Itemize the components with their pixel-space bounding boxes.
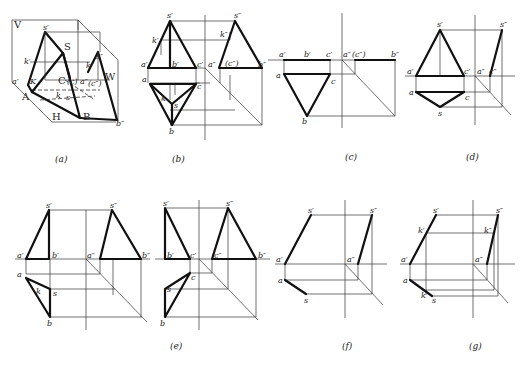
label-c1: c′	[464, 67, 470, 76]
panel-b: s′ s″ k′ k″ a′ b′ c′ a″ (c″) b″ a c k s …	[141, 11, 266, 164]
label-a: a	[409, 88, 414, 97]
label-b3: b″	[391, 50, 399, 59]
label-s: s	[432, 296, 436, 305]
panel-f: s′ s″ a′ a″ a s (f)	[275, 200, 387, 351]
label-a1: a′	[401, 255, 408, 264]
label-s1: s′	[308, 206, 314, 215]
label-K: K	[29, 77, 37, 86]
label-a: a	[142, 75, 147, 84]
label-b3: b″	[142, 251, 150, 260]
label-c: (c)	[67, 77, 78, 86]
label-b: b	[302, 117, 307, 126]
label-s1: s′	[43, 23, 49, 32]
label-C: C	[58, 75, 66, 86]
label-s: s	[174, 101, 178, 110]
label-s3: s″	[500, 20, 507, 29]
panel-d: s′ s″ a′ c′ a″ c″ a c s (d)	[405, 15, 515, 162]
label-c1: c′	[326, 50, 332, 59]
label-a1: a′	[407, 67, 414, 76]
label-c: c	[191, 273, 196, 282]
projection-figure: V s′ S s″ k′ k″ W a′ K C (c) a″ (c″) A k…	[0, 0, 523, 368]
label-b3: b″	[258, 60, 266, 69]
label-b1: b′	[172, 60, 179, 69]
label-a1: a′	[276, 255, 283, 264]
label-k3: k″	[86, 61, 94, 70]
label-c3: c″	[214, 251, 221, 260]
label-c3: (c″)	[225, 59, 239, 68]
label-s1: s′	[433, 206, 439, 215]
label-a3: a″	[475, 255, 483, 264]
label-b1: b′	[52, 251, 59, 260]
label-c3: c″	[489, 67, 496, 76]
label-S: S	[64, 41, 71, 52]
label-a3: a″	[347, 255, 355, 264]
label-k1: k′	[152, 36, 159, 45]
label-a3: a″	[87, 251, 95, 260]
label-b3: b″	[258, 251, 266, 260]
label-a: a	[276, 71, 281, 80]
panel-c: a′ b′ c′ a″ (c″) b″ a c b (c)	[268, 13, 399, 162]
label-k1: k′	[24, 57, 31, 66]
caption-f: (f)	[342, 341, 353, 351]
label-k: k	[421, 291, 426, 300]
label-a1: a′	[17, 251, 24, 260]
caption-d: (d)	[466, 152, 479, 162]
panel-e-left: s′ s″ a′ b′ a″ b″ a k s b	[15, 201, 150, 330]
caption-c: (c)	[345, 152, 358, 162]
label-a3: a″	[80, 77, 88, 86]
label-b: b	[47, 319, 52, 328]
label-s1: s′	[46, 201, 52, 210]
label-s: s	[66, 93, 70, 102]
label-a1: a′	[12, 77, 19, 86]
label-c: c	[197, 82, 202, 91]
label-a: a	[403, 276, 408, 285]
label-s3: s″	[234, 11, 241, 20]
label-A: A	[21, 91, 30, 102]
label-a3: a″	[343, 50, 351, 59]
label-b1: b′	[167, 251, 174, 260]
caption-a: (a)	[55, 154, 68, 164]
label-b3: b″	[116, 119, 124, 128]
label-c1: c′	[190, 251, 196, 260]
label-k3: k″	[220, 30, 228, 39]
panel-g: s′ s″ k′ k″ a′ a″ a k s (g)	[400, 200, 515, 351]
label-s3: s″	[370, 206, 377, 215]
label-s: s	[304, 296, 308, 305]
label-c3: (c″)	[352, 50, 366, 59]
label-c: c	[465, 93, 470, 102]
label-k3: k″	[484, 226, 492, 235]
label-s1: s′	[163, 199, 169, 208]
label-s: s	[167, 285, 171, 294]
label-s3: s″	[110, 201, 117, 210]
label-c1: c′	[197, 60, 203, 69]
label-a3: a″	[477, 67, 485, 76]
label-a3: a″	[208, 60, 216, 69]
label-b: b	[169, 127, 174, 136]
caption-g: (g)	[469, 341, 482, 351]
label-b1: b′	[304, 50, 311, 59]
label-k1: k′	[418, 226, 425, 235]
label-s3: s″	[96, 52, 103, 61]
label-s: s	[53, 289, 57, 298]
label-V: V	[13, 19, 22, 30]
label-W: W	[105, 71, 116, 82]
caption-e: (e)	[170, 341, 183, 351]
label-k: k	[161, 94, 166, 103]
caption-b: (b)	[172, 154, 185, 164]
label-c3: (c″)	[88, 79, 102, 88]
label-a: a	[17, 270, 22, 279]
label-s3: s″	[226, 199, 233, 208]
label-k: k	[56, 91, 61, 100]
label-s: s	[438, 109, 442, 118]
label-c: c	[331, 77, 336, 86]
label-s1: s′	[167, 11, 173, 20]
label-s3: s″	[496, 206, 503, 215]
label-s1: s′	[437, 20, 443, 29]
label-B: B	[83, 111, 90, 122]
panel-e-right: s′ s″ b′ c′ c″ b″ c s b (e)	[155, 199, 270, 351]
label-H: H	[52, 111, 61, 122]
label-b: b	[160, 319, 165, 328]
label-k: k	[36, 287, 41, 296]
label-a1: a′	[279, 50, 286, 59]
panel-a: V s′ S s″ k′ k″ W a′ K C (c) a″ (c″) A k…	[12, 19, 124, 164]
